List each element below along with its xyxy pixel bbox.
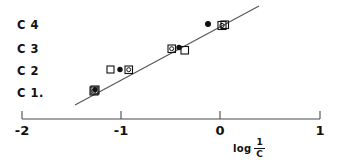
x-axis xyxy=(22,111,320,119)
x-tick-label-0: 0 xyxy=(215,124,224,137)
x-tick-label--2: -2 xyxy=(15,124,29,137)
data-markers xyxy=(90,21,229,95)
plot-canvas xyxy=(0,0,337,168)
regression-line xyxy=(75,6,259,105)
marker-circle-in-square xyxy=(125,66,133,74)
scatter-plot-figure: C 4 C 3 C 2 C 1. -2 -1 0 1 log 1 C xyxy=(0,0,337,168)
x-tick-label-1: 1 xyxy=(315,124,324,137)
marker-filled-circle xyxy=(92,87,97,92)
y-tick-label-c2: C 2 xyxy=(17,66,39,78)
y-tick-label-c1: C 1. xyxy=(17,88,44,100)
marker-circle-in-square-inner xyxy=(170,47,174,51)
y-tick-label-c4: C 4 xyxy=(17,20,39,32)
marker-filled-circle xyxy=(205,21,211,27)
marker-circle-in-square-inner xyxy=(127,68,131,72)
marker-filled-circle xyxy=(117,67,122,72)
fraction-numerator: 1 xyxy=(255,138,265,147)
x-tick-label--1: -1 xyxy=(114,124,128,137)
fraction-denominator: C xyxy=(254,150,265,159)
y-tick-label-c3: C 3 xyxy=(17,44,39,56)
marker-open-square xyxy=(107,66,114,73)
x-axis-label: log 1 C xyxy=(233,138,265,159)
x-axis-label-fraction: 1 C xyxy=(254,138,265,159)
x-axis-label-prefix: log xyxy=(233,144,251,154)
